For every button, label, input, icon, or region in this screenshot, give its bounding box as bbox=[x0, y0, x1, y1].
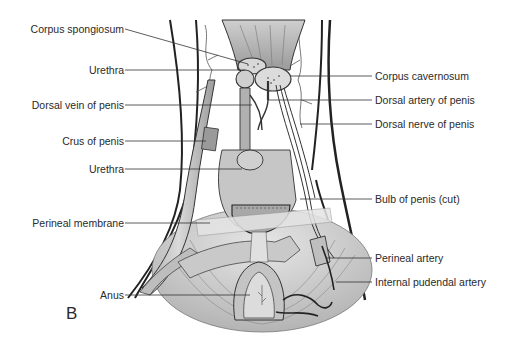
label-dorsal-vein-of-penis: Dorsal vein of penis bbox=[32, 99, 124, 111]
label-urethra-upper: Urethra bbox=[89, 64, 124, 76]
label-dorsal-nerve-of-penis: Dorsal nerve of penis bbox=[375, 118, 474, 130]
label-urethra-lower: Urethra bbox=[89, 163, 124, 175]
central-tendon bbox=[250, 232, 268, 262]
label-anus: Anus bbox=[100, 289, 124, 301]
label-perineal-membrane: Perineal membrane bbox=[32, 217, 124, 229]
panel-letter: B bbox=[66, 304, 77, 324]
label-corpus-cavernosum: Corpus cavernosum bbox=[375, 70, 469, 82]
label-crus-of-penis: Crus of penis bbox=[62, 135, 124, 147]
label-internal-pudendal-artery: Internal pudendal artery bbox=[375, 276, 486, 288]
label-perineal-artery: Perineal artery bbox=[375, 252, 443, 264]
anatomy-figure: Corpus spongiosum Urethra Dorsal vein of… bbox=[0, 0, 511, 338]
label-bulb-of-penis-cut: Bulb of penis (cut) bbox=[375, 193, 460, 205]
label-dorsal-artery-of-penis: Dorsal artery of penis bbox=[375, 94, 475, 106]
label-corpus-spongiosum: Corpus spongiosum bbox=[31, 23, 124, 35]
